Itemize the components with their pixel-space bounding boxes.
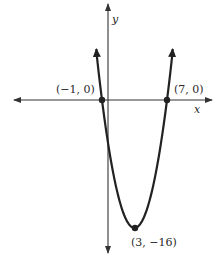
vertex-label: (3, −16) bbox=[131, 236, 177, 249]
right-root-point bbox=[164, 97, 170, 103]
parabola-graph: y x (−1, 0) (7, 0) (3, −16) bbox=[0, 0, 219, 257]
left-root-point bbox=[99, 97, 105, 103]
x-axis-label: x bbox=[194, 103, 201, 116]
vertex-point bbox=[132, 225, 138, 231]
right-root-label: (7, 0) bbox=[174, 83, 204, 96]
y-axis-label: y bbox=[111, 13, 119, 26]
left-root-label: (−1, 0) bbox=[56, 83, 95, 96]
